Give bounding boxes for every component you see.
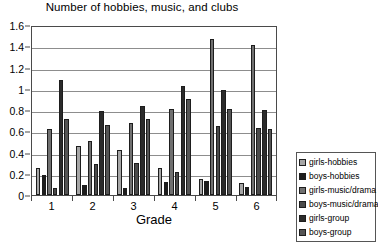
y-axis-tick-label: 1.6 [9, 20, 24, 32]
bar [221, 90, 226, 195]
legend-swatch-icon [299, 159, 306, 166]
bar-groups [32, 27, 276, 195]
legend-label: girls-hobbies [309, 158, 357, 167]
bar [169, 109, 174, 195]
x-axis-tick-label: 6 [253, 200, 259, 212]
bar [181, 86, 186, 195]
legend-label: boys-music/drama [309, 200, 378, 209]
bar-group [73, 27, 114, 195]
x-axis-tick-label: 1 [48, 200, 54, 212]
y-axis-tick-label: 1.4 [9, 41, 24, 53]
bar [251, 45, 256, 195]
y-axis-tick [25, 132, 30, 133]
y-axis-tick-label: 0.2 [9, 169, 24, 181]
legend-label: girls-music/drama [309, 186, 376, 195]
legend-item[interactable]: girls-music/drama [299, 183, 374, 197]
bar [76, 146, 81, 195]
bar [175, 172, 180, 195]
bar [186, 99, 191, 195]
legend-swatch-icon [299, 173, 306, 180]
legend-label: girls-group [309, 214, 349, 223]
bar [158, 168, 163, 195]
bar-group [113, 27, 154, 195]
bar [105, 125, 110, 195]
y-axis-tick-label: 0.6 [9, 126, 24, 138]
legend-swatch-icon [299, 215, 306, 222]
legend-label: boys-hobbies [309, 172, 360, 181]
y-axis-tick-label: 1.2 [9, 63, 24, 75]
y-axis-tick [25, 196, 30, 197]
bar [146, 119, 151, 196]
y-axis-tick [25, 89, 30, 90]
bar [42, 175, 47, 195]
legend-item[interactable]: girls-hobbies [299, 155, 374, 169]
bar [88, 141, 93, 195]
x-axis-title: Grade [31, 212, 277, 227]
y-axis-tick [25, 111, 30, 112]
bar [227, 109, 232, 195]
bar [245, 187, 250, 196]
bar [210, 39, 215, 195]
x-axis-tick-label: 5 [212, 200, 218, 212]
bar [99, 111, 104, 195]
bar [256, 128, 261, 195]
bar [129, 123, 134, 195]
legend-label: boys-group [309, 228, 352, 237]
legend-item[interactable]: boys-music/drama [299, 197, 374, 211]
y-axis-tick [25, 47, 30, 48]
bar [64, 119, 69, 196]
x-axis-tick-label: 4 [171, 200, 177, 212]
y-axis-tick-label: 0.8 [9, 105, 24, 117]
bar [47, 129, 52, 195]
y-axis-tick [25, 26, 30, 27]
bar [123, 188, 128, 195]
bar [262, 110, 267, 195]
legend-swatch-icon [299, 187, 306, 194]
bar [82, 185, 87, 195]
bar-group [195, 27, 236, 195]
bar [199, 179, 204, 195]
bar [239, 183, 244, 195]
x-axis-tick-label: 2 [89, 200, 95, 212]
legend-item[interactable]: girls-group [299, 211, 374, 225]
bar [140, 106, 145, 195]
chart-title: Number of hobbies, music, and clubs [0, 1, 284, 13]
y-axis-tick-label: 0.4 [9, 148, 24, 160]
bar [53, 188, 58, 195]
bar [94, 164, 99, 195]
y-axis-tick [25, 68, 30, 69]
x-axis-tick-label: 3 [130, 200, 136, 212]
bar-group [235, 27, 276, 195]
bar [216, 126, 221, 195]
bar [59, 80, 64, 195]
y-axis-tick-label: 0 [18, 190, 24, 202]
plot-area [31, 26, 277, 196]
legend-swatch-icon [299, 201, 306, 208]
bar [204, 181, 209, 195]
bar [134, 163, 139, 195]
legend-item[interactable]: boys-group [299, 225, 374, 239]
y-axis-tick [25, 153, 30, 154]
bar [268, 129, 273, 195]
legend-item[interactable]: boys-hobbies [299, 169, 374, 183]
y-axis-tick-label: 1 [18, 84, 24, 96]
bar [36, 168, 41, 195]
y-axis: 00.20.40.60.811.21.41.6 [0, 26, 28, 196]
legend-swatch-icon [299, 229, 306, 236]
bar [117, 150, 122, 195]
chart-legend: girls-hobbiesboys-hobbiesgirls-music/dra… [296, 152, 376, 242]
bar-group [154, 27, 195, 195]
y-axis-tick [25, 174, 30, 175]
chart-container: Number of hobbies, music, and clubs 00.2… [0, 0, 378, 252]
bar [164, 182, 169, 195]
bar-group [32, 27, 73, 195]
